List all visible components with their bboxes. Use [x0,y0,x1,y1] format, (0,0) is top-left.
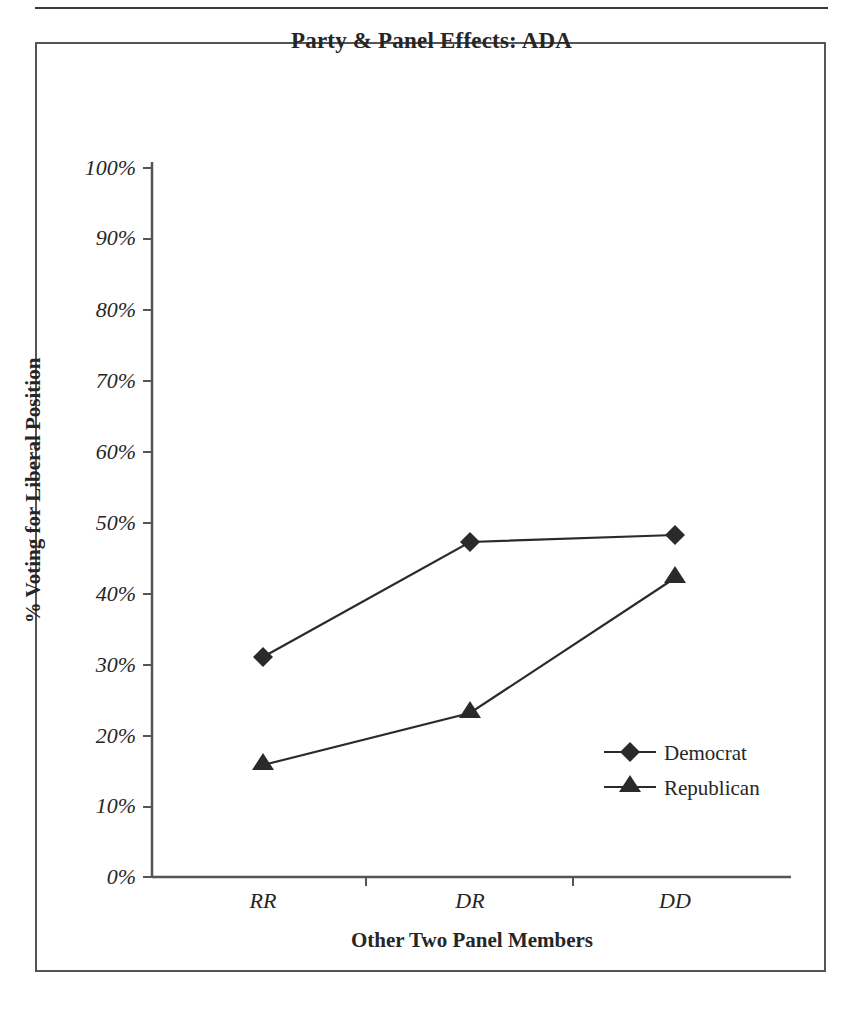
series-line-democrat [263,535,675,657]
legend-key-republican [604,775,656,792]
diamond-marker [665,525,685,545]
diamond-marker [620,742,640,762]
series-markers-republican [252,566,686,770]
series-line-republican [263,578,675,765]
x-tick-marks [366,877,573,886]
triangle-marker [252,753,274,770]
diamond-marker [253,647,273,667]
diamond-marker [460,532,480,552]
plot-canvas [0,0,863,1021]
series-markers-democrat [253,525,685,667]
triangle-marker [664,566,686,583]
figure-page: Party & Panel Effects: ADA % Voting for … [0,0,863,1021]
y-tick-marks [143,168,152,877]
legend-key-democrat [604,742,656,762]
triangle-marker [619,775,641,792]
triangle-marker [459,701,481,718]
